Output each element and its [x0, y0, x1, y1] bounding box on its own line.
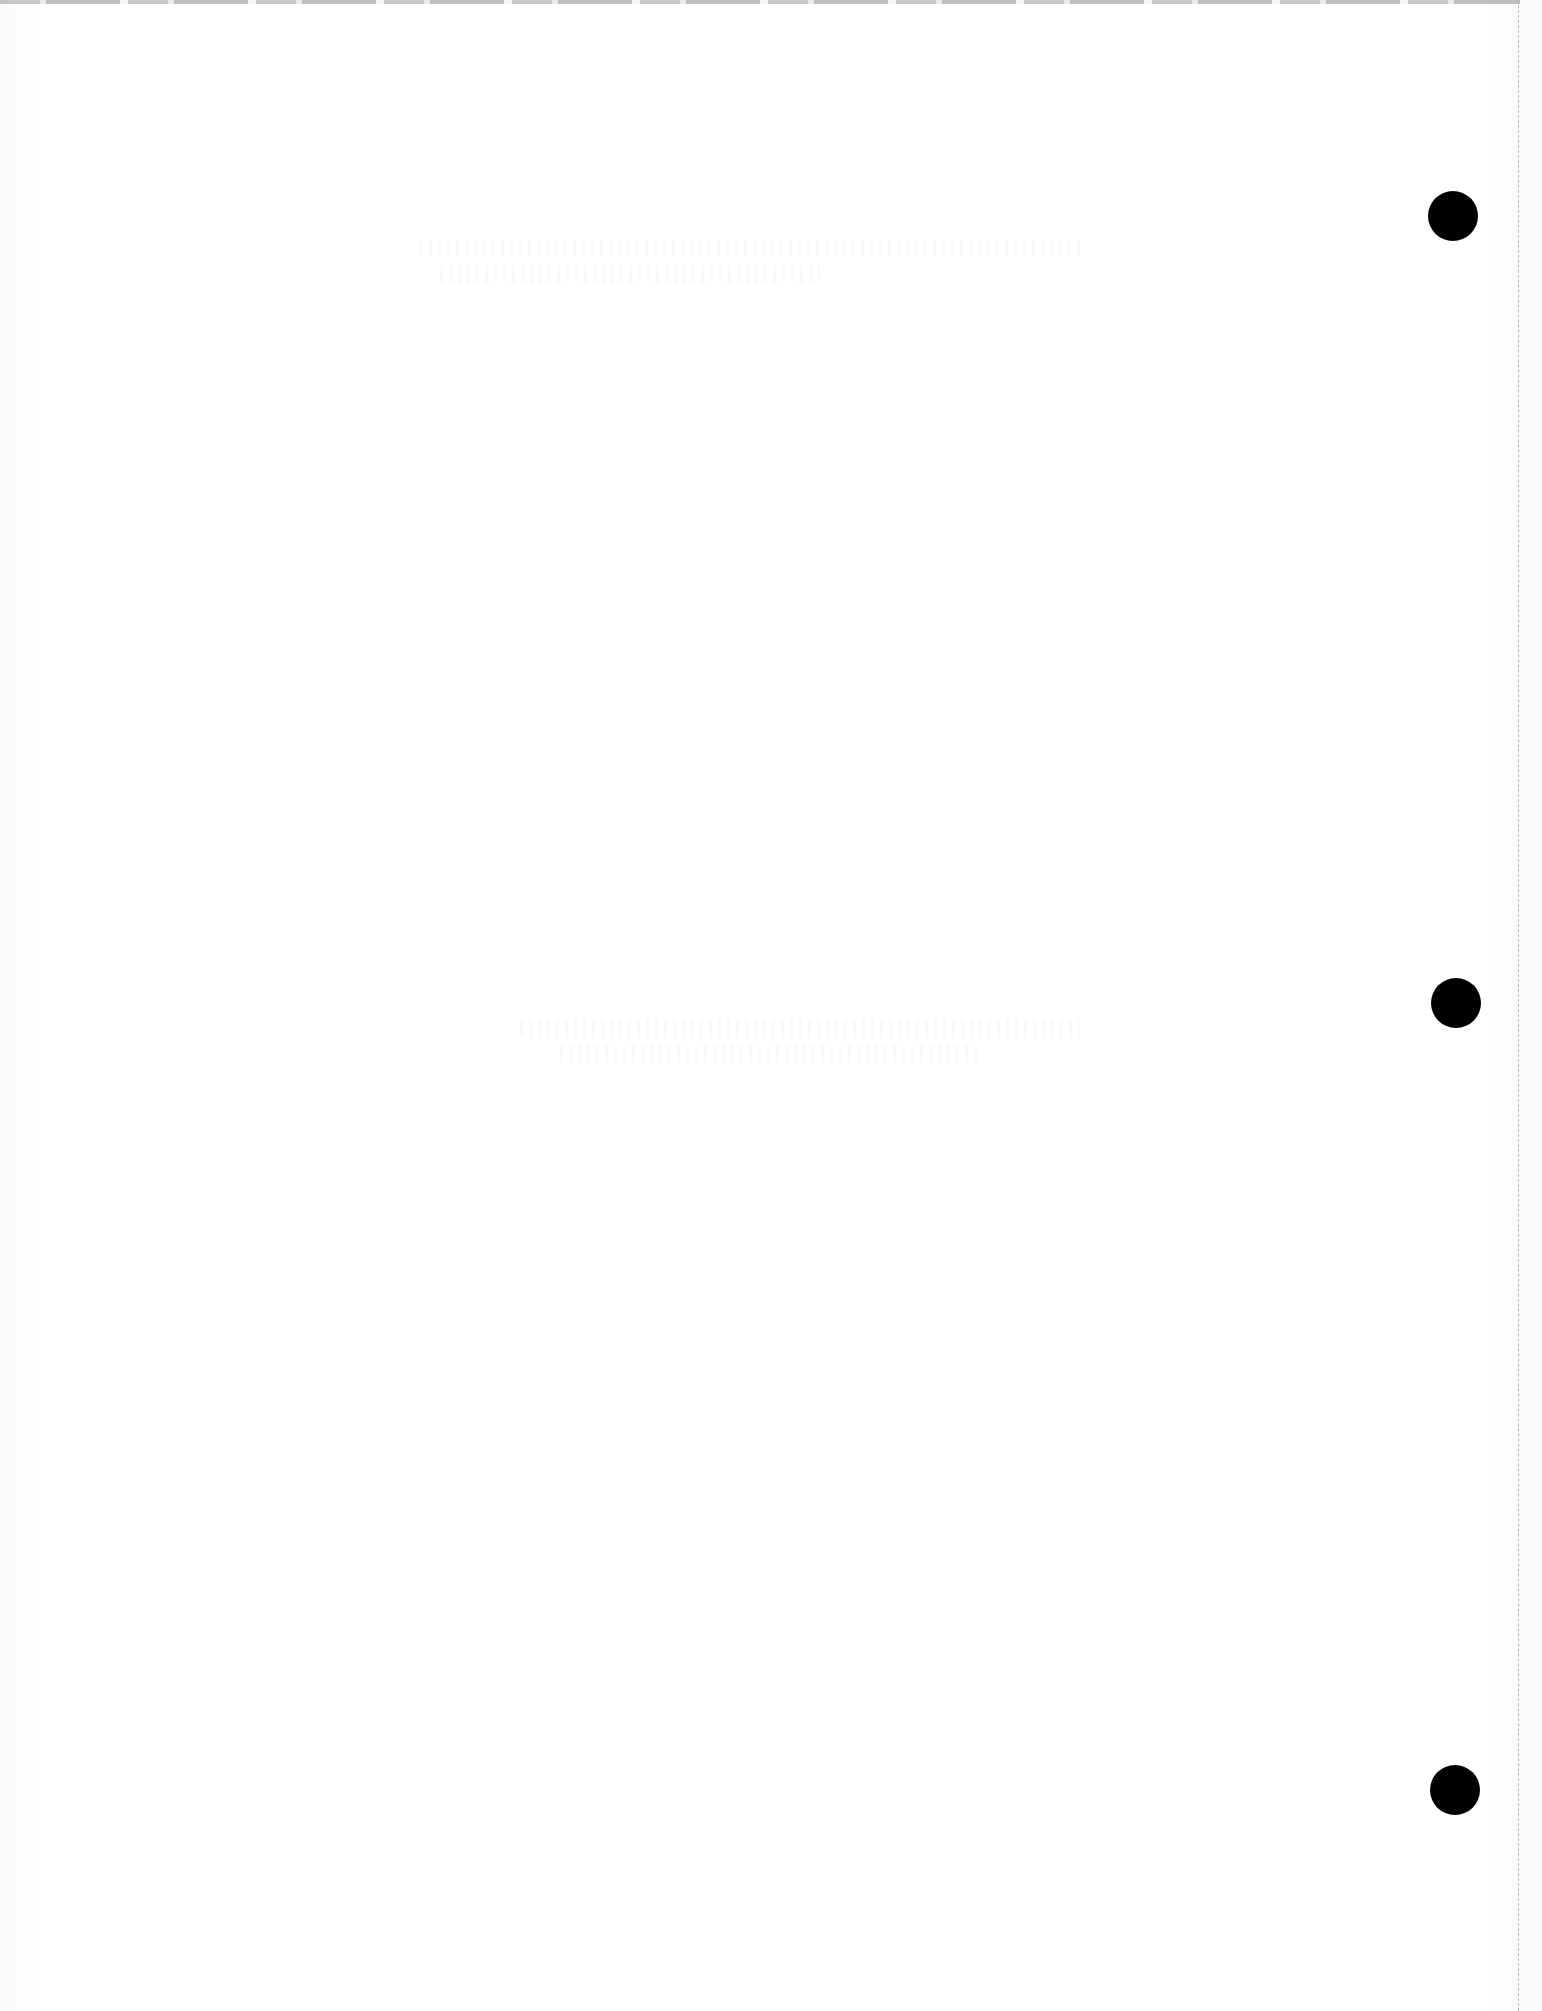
- perforation-line: [1518, 0, 1519, 2011]
- bleed-through-mark: [420, 240, 1080, 258]
- bleed-through-mark: [440, 265, 820, 283]
- punch-hole-middle: [1431, 978, 1481, 1028]
- bleed-through-mark: [520, 1020, 1080, 1038]
- scan-top-edge: [0, 0, 1542, 4]
- punch-hole-top: [1428, 191, 1478, 241]
- bleed-through-mark: [560, 1045, 980, 1063]
- right-margin-strip: [1520, 0, 1542, 2011]
- punch-hole-bottom: [1430, 1765, 1480, 1815]
- blank-page: [0, 0, 1542, 2011]
